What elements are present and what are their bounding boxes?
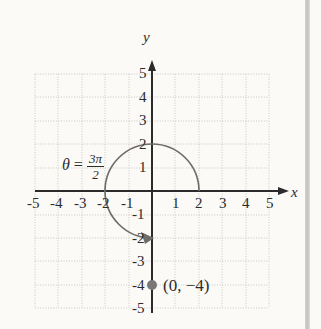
polar-graph-figure: x y -5 -4 -3 -2 -1 1 2 3 4 5 5 4 3 2 1 -… <box>0 0 321 329</box>
theta-denominator: 2 <box>87 168 104 181</box>
x-axis-arrow-icon <box>278 187 289 195</box>
point-coordinate-label: (0, −4) <box>163 277 209 294</box>
theta-numerator: 3π <box>87 152 104 165</box>
y-tick-label: -3 <box>132 254 145 269</box>
y-axis-arrow-icon <box>148 60 156 71</box>
page-edge-artifact <box>305 0 310 329</box>
theta-annotation: θ = 3π 2 <box>62 152 104 181</box>
y-tick-label: 5 <box>139 66 147 81</box>
y-tick-label: -2 <box>132 231 145 246</box>
x-tick-label: -3 <box>74 196 87 211</box>
x-tick-label: 5 <box>266 196 274 211</box>
y-axis-label: y <box>143 30 150 45</box>
y-tick-label: 2 <box>139 137 147 152</box>
graph-canvas <box>0 0 321 329</box>
x-tick-label: 2 <box>195 196 203 211</box>
theta-fraction: 3π 2 <box>87 152 104 181</box>
x-tick-label: 1 <box>172 196 180 211</box>
y-tick-label: 1 <box>139 160 147 175</box>
x-tick-label: 4 <box>242 196 250 211</box>
y-tick-label: -1 <box>132 207 145 222</box>
x-tick-label: -4 <box>50 196 63 211</box>
x-tick-label: -5 <box>27 196 40 211</box>
plotted-point-marker <box>147 280 157 290</box>
theta-equals: = <box>74 156 83 173</box>
y-tick-label: -4 <box>132 278 145 293</box>
y-tick-label: 3 <box>139 113 147 128</box>
x-axis-label: x <box>291 185 298 200</box>
y-axis <box>148 60 156 313</box>
y-tick-label: 4 <box>139 90 147 105</box>
x-axis <box>35 187 289 195</box>
x-tick-label: 3 <box>219 196 227 211</box>
theta-symbol: θ <box>62 156 70 173</box>
y-tick-label: -5 <box>132 301 145 316</box>
x-tick-label: -2 <box>97 196 110 211</box>
